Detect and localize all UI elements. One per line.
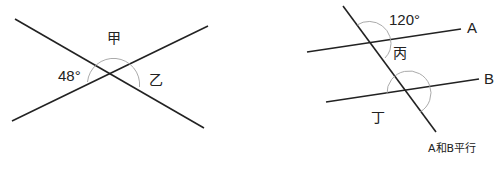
line-b-label: B xyxy=(484,71,494,86)
angle-label-120: 120° xyxy=(389,12,420,27)
angle-label-bing: 丙 xyxy=(393,46,407,60)
angle-label-yi: 乙 xyxy=(149,73,163,87)
upper-inner-arc xyxy=(385,50,390,58)
angle-label-jia: 甲 xyxy=(107,31,121,45)
line-a-label: A xyxy=(467,20,477,35)
line-b xyxy=(326,79,479,102)
line-a xyxy=(307,29,461,52)
angle-label-ding: 丁 xyxy=(371,110,385,124)
parallel-note: A和B平行 xyxy=(428,143,476,154)
angle-label-48: 48° xyxy=(58,68,81,83)
angle-diagram xyxy=(0,0,499,169)
upper-angle-arc xyxy=(357,21,391,50)
